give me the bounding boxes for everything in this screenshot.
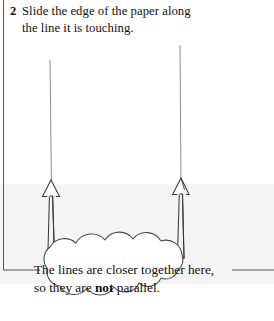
left-guide-line xyxy=(50,60,52,188)
callout-text: The lines are closer together here, so t… xyxy=(34,261,240,296)
callout-text-line-2: so they are not parallel. xyxy=(34,279,240,297)
callout-line2-post: parallel. xyxy=(113,280,160,295)
right-guide-line xyxy=(180,45,181,186)
callout-line2-pre: so they are xyxy=(34,280,95,295)
callout-text-line-1: The lines are closer together here, xyxy=(34,261,240,279)
figure-page: 2 Slide the edge of the paper along the … xyxy=(0,0,274,321)
callout-line2-emphasis: not xyxy=(95,280,113,295)
